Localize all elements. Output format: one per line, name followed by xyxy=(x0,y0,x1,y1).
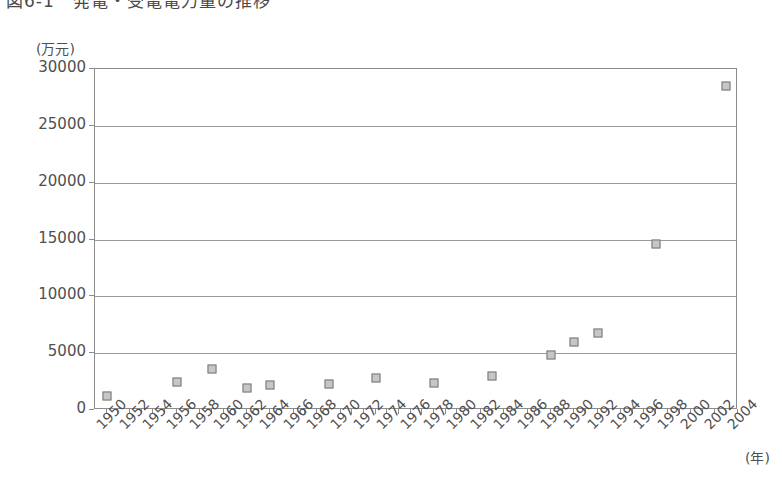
gridline xyxy=(95,353,736,354)
data-point xyxy=(570,337,579,346)
y-tick-label: 0 xyxy=(76,399,86,417)
gridline xyxy=(95,240,736,241)
y-tick-mark xyxy=(89,182,94,183)
gridline xyxy=(95,183,736,184)
y-tick-mark xyxy=(89,125,94,126)
y-axis: 050001000015000200002500030000 xyxy=(0,0,86,487)
data-point xyxy=(242,383,251,392)
plot-area xyxy=(94,68,737,409)
y-tick-label: 25000 xyxy=(38,115,86,133)
data-point xyxy=(371,374,380,383)
y-tick-mark xyxy=(89,239,94,240)
x-axis-unit-label: (年) xyxy=(745,447,770,467)
gridline xyxy=(95,126,736,127)
data-point xyxy=(488,372,497,381)
data-point xyxy=(266,380,275,389)
data-point xyxy=(722,82,731,91)
y-tick-mark xyxy=(89,409,94,410)
data-point xyxy=(430,378,439,387)
data-point xyxy=(172,377,181,386)
y-tick-label: 20000 xyxy=(38,172,86,190)
y-tick-label: 30000 xyxy=(38,58,86,76)
y-tick-label: 10000 xyxy=(38,285,86,303)
y-tick-label: 5000 xyxy=(48,342,86,360)
data-point xyxy=(207,365,216,374)
data-point xyxy=(102,392,111,401)
data-point xyxy=(546,351,555,360)
y-tick-label: 15000 xyxy=(38,229,86,247)
y-tick-mark xyxy=(89,352,94,353)
scatter-chart: (万元) 050001000015000200002500030000 1950… xyxy=(0,0,782,487)
y-tick-mark xyxy=(89,68,94,69)
data-point xyxy=(324,380,333,389)
gridline xyxy=(95,296,736,297)
data-point xyxy=(593,328,602,337)
data-point xyxy=(652,240,661,249)
y-tick-mark xyxy=(89,295,94,296)
